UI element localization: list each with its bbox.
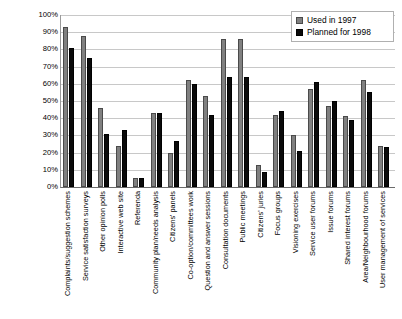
bar-group xyxy=(201,15,219,187)
y-axis-tick: 20% xyxy=(24,149,58,157)
bar xyxy=(139,178,144,187)
x-axis-tick: Focus groups xyxy=(271,190,285,316)
x-axis-tick-label: Community plan/needs analysis xyxy=(150,189,162,315)
bar xyxy=(343,116,348,187)
bar xyxy=(262,172,267,187)
x-axis-tick: Consultation documents xyxy=(219,190,233,316)
x-axis-tick-label: Visioning exercises xyxy=(290,189,302,315)
x-axis-tick-label: Citizens' panels xyxy=(167,189,179,315)
x-axis-tick-label: Consultation documents xyxy=(220,189,232,315)
x-axis-tick: Service user forums xyxy=(306,190,320,316)
bar xyxy=(81,36,86,187)
bar xyxy=(238,39,243,187)
bar xyxy=(308,89,313,187)
bar xyxy=(209,115,214,187)
x-axis-tick-label: Citizens' juries xyxy=(255,189,267,315)
y-axis-tick: 30% xyxy=(24,131,58,139)
x-axis-tick-label: Focus groups xyxy=(272,189,284,315)
x-axis-tick-label: Public meetings xyxy=(237,189,249,315)
bar xyxy=(133,178,138,187)
bar-group xyxy=(114,15,132,187)
bar-group xyxy=(131,15,149,187)
x-axis-tick: User management of services xyxy=(376,190,390,316)
bar xyxy=(157,113,162,187)
x-axis-tick: Shared interest forums xyxy=(341,190,355,316)
bar xyxy=(63,27,68,187)
x-axis-tick: Service satisfaction surveys xyxy=(79,190,93,316)
bar xyxy=(256,165,261,187)
bar xyxy=(203,96,208,187)
x-axis-tick: Citizens' juries xyxy=(254,190,268,316)
y-axis-tick: 50% xyxy=(24,97,58,105)
bar xyxy=(98,108,103,187)
x-axis-tick: Visioning exercises xyxy=(289,190,303,316)
x-axis-tick-labels: Complaints/suggestion schemesService sat… xyxy=(61,190,394,318)
legend-swatch-planned-1998 xyxy=(296,29,303,36)
bar xyxy=(69,48,74,187)
y-axis-tick: 90% xyxy=(24,28,58,36)
bar xyxy=(174,141,179,187)
x-axis-tick-label: Complaints/suggestion schemes xyxy=(62,189,74,315)
x-axis-tick: Complaints/suggestion schemes xyxy=(61,190,75,316)
legend-item-planned-1998: Planned for 1998 xyxy=(296,26,389,38)
legend-label-used-1997: Used in 1997 xyxy=(307,15,356,25)
bar xyxy=(384,147,389,187)
bar xyxy=(186,80,191,187)
bar-group xyxy=(166,15,184,187)
bar xyxy=(367,92,372,187)
bar xyxy=(87,58,92,187)
bar xyxy=(168,153,173,187)
x-axis-tick-label: Question and answer sessions xyxy=(202,189,214,315)
x-axis-tick: Public meetings xyxy=(236,190,250,316)
bar-group xyxy=(149,15,167,187)
x-axis-tick: Co-option/committees work xyxy=(184,190,198,316)
bar xyxy=(378,146,383,187)
x-axis-tick-label: Co-option/committees work xyxy=(185,189,197,315)
x-axis-tick: Interactive web site xyxy=(114,190,128,316)
bar xyxy=(279,111,284,187)
bar-chart: Per cent of authorities 100%90%80%70%60%… xyxy=(0,0,402,319)
x-axis-tick: Citizens' panels xyxy=(166,190,180,316)
legend-item-used-1997: Used in 1997 xyxy=(296,14,389,26)
x-axis-tick-label: Issue forums xyxy=(325,189,337,315)
bar-group xyxy=(271,15,289,187)
y-axis-tick-labels: 100%90%80%70%60%50%40%30%20%10%0% xyxy=(20,0,58,200)
bar-group xyxy=(236,15,254,187)
y-axis-tick: 60% xyxy=(24,80,58,88)
x-axis-tick-label: Service user forums xyxy=(307,189,319,315)
legend-label-planned-1998: Planned for 1998 xyxy=(307,27,371,37)
bar xyxy=(227,77,232,187)
x-axis-tick-label: Service satisfaction surveys xyxy=(80,189,92,315)
bar xyxy=(244,77,249,187)
x-axis-tick-label: User management of services xyxy=(377,189,389,315)
bar xyxy=(192,84,197,187)
bar xyxy=(297,151,302,187)
x-axis-tick-label: Shared interest forums xyxy=(342,189,354,315)
bar xyxy=(326,106,331,187)
x-axis-tick-label: Interactive web site xyxy=(115,189,127,315)
chart-legend: Used in 1997 Planned for 1998 xyxy=(291,11,394,42)
y-axis-tick: 10% xyxy=(24,166,58,174)
x-axis-tick: Referenda xyxy=(131,190,145,316)
bar xyxy=(291,135,296,187)
bar xyxy=(104,134,109,187)
x-axis-tick-label: Other opinion polls xyxy=(97,189,109,315)
bar xyxy=(151,113,156,187)
bar xyxy=(116,146,121,187)
x-axis-tick: Other opinion polls xyxy=(96,190,110,316)
bar xyxy=(122,130,127,187)
bar xyxy=(273,115,278,187)
bar-group xyxy=(79,15,97,187)
bar-group xyxy=(184,15,202,187)
bar xyxy=(349,120,354,187)
legend-swatch-used-1997 xyxy=(296,17,303,24)
y-axis-tick: 100% xyxy=(24,11,58,19)
bar xyxy=(314,82,319,187)
y-axis-tick: 80% xyxy=(24,45,58,53)
x-axis-tick: Community plan/needs analysis xyxy=(149,190,163,316)
bar xyxy=(332,101,337,187)
x-axis-tick: Area/Neighbourhood forums xyxy=(359,190,373,316)
y-axis-tick: 40% xyxy=(24,114,58,122)
bar-group xyxy=(96,15,114,187)
x-axis-tick-label: Referenda xyxy=(132,189,144,315)
